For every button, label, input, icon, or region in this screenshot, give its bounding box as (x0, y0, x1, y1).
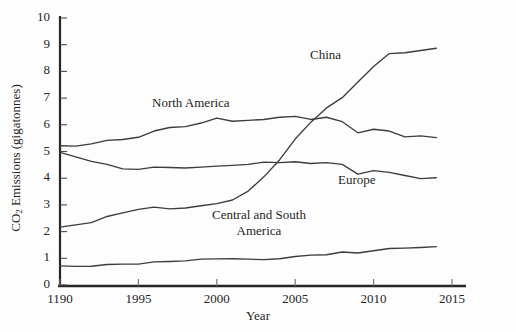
series-label-central-and-south-america: Central and South America (212, 207, 306, 239)
x-axis-title: Year (208, 308, 308, 324)
y-tick-label: 10 (28, 9, 50, 25)
x-tick-label: 1190 (36, 291, 84, 307)
x-tick-label: 2005 (271, 291, 319, 307)
x-tick-label: 2010 (350, 291, 398, 307)
series-line-china (60, 48, 436, 227)
series-label-casa-line1: Central and South (212, 207, 306, 223)
y-axis-title-subscript: 2 (14, 209, 24, 214)
series-line-north-america (60, 116, 436, 146)
y-tick-label: 7 (28, 89, 50, 105)
y-tick-label: 6 (28, 116, 50, 132)
series-label-casa-line2: America (212, 223, 306, 239)
y-tick-label: 1 (28, 249, 50, 265)
y-tick-label: 5 (28, 143, 50, 159)
x-tick-label: 2000 (193, 291, 241, 307)
series-line-central-and-south-america (60, 247, 436, 267)
y-tick-label: 8 (28, 62, 50, 78)
x-tick-label: 1995 (114, 291, 162, 307)
y-tick-label: 9 (28, 36, 50, 52)
x-tick-label: 2015 (428, 291, 476, 307)
y-tick-label: 3 (28, 196, 50, 212)
series-line-europe (60, 152, 436, 178)
series-label-europe: Europe (338, 172, 376, 188)
chart-page: 012345678910 119019952000200520102015 CO… (0, 0, 516, 332)
chart-plot-area (0, 0, 516, 332)
y-tick-label: 0 (28, 276, 50, 292)
y-tick-label: 4 (28, 169, 50, 185)
y-axis-title: CO2 Emissions (gigatonnes) (8, 63, 24, 253)
series-label-china: China (310, 47, 341, 63)
y-tick-label: 2 (28, 223, 50, 239)
series-label-north-america: North America (152, 95, 230, 111)
y-axis-title-prefix: CO (8, 214, 23, 232)
y-axis-title-suffix: Emissions (gigatonnes) (8, 84, 23, 209)
